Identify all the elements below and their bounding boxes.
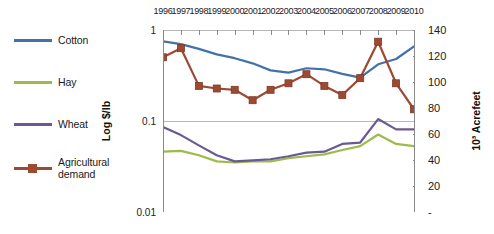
- data-point-marker: [393, 80, 400, 87]
- y-axis-right-tick-label: 120: [428, 50, 446, 62]
- legend-swatch-agricultural-demand: [14, 167, 52, 170]
- data-point-marker: [285, 80, 292, 87]
- x-axis-tick-labels: 1996199719981999200020012002200320042005…: [163, 6, 414, 20]
- y-axis-left-line: [163, 30, 164, 212]
- chart-figure: Cotton Hay Wheat Agricultural demand 199…: [0, 0, 494, 234]
- legend-item-hay[interactable]: Hay: [14, 76, 76, 88]
- series-line-hay: [163, 135, 414, 163]
- data-point-marker: [231, 86, 238, 93]
- legend-item-wheat[interactable]: Wheat: [14, 118, 88, 130]
- legend-label-hay: Hay: [58, 76, 76, 88]
- x-axis-tick-label: 2008: [369, 6, 388, 17]
- data-point-marker: [321, 82, 328, 89]
- x-axis-tick-label: 2005: [315, 6, 334, 17]
- x-axis-tick-label: 2009: [387, 6, 406, 17]
- plot-area: [163, 30, 414, 212]
- x-axis-tick-label: 1999: [207, 6, 226, 17]
- chart-legend: Cotton Hay Wheat Agricultural demand: [0, 28, 110, 208]
- x-axis-tick-label: 2010: [405, 6, 424, 17]
- legend-item-agricultural-demand[interactable]: Agricultural demand: [14, 156, 120, 180]
- x-axis-tick-label: 2003: [279, 6, 298, 17]
- y-axis-right-tick-label: 100: [428, 76, 446, 88]
- data-point-marker: [213, 85, 220, 92]
- y-axis-right-tick-label: 40: [428, 154, 440, 166]
- data-point-marker: [357, 75, 364, 82]
- x-axis-tick-label: 1997: [172, 6, 191, 17]
- data-point-marker: [195, 82, 202, 89]
- legend-swatch-wheat: [14, 123, 52, 126]
- x-axis-tick-label: 2004: [297, 6, 316, 17]
- data-series-layer: [163, 30, 414, 212]
- x-axis-tick-label: 1998: [189, 6, 208, 17]
- y-axis-left-title: Log $/lb: [100, 101, 112, 141]
- legend-swatch-hay: [14, 81, 52, 84]
- y-axis-right-tick-label: -: [428, 206, 432, 218]
- y-axis-left-tick-label: 0.01: [120, 207, 156, 218]
- x-axis-tick-label: 1996: [154, 6, 173, 17]
- x-axis-tick-label: 2001: [243, 6, 262, 17]
- data-point-marker: [249, 97, 256, 104]
- series-line-agricultural-demand: [163, 42, 414, 110]
- y-axis-left-tick-label: 1: [120, 25, 156, 36]
- data-point-marker: [267, 86, 274, 93]
- legend-label-agricultural-demand: Agricultural demand: [58, 156, 120, 180]
- y-axis-right-tick-label: 60: [428, 128, 440, 140]
- square-marker-icon: [28, 164, 37, 173]
- y-axis-right-title: 10³ Acrefeet: [470, 91, 482, 151]
- legend-swatch-cotton: [14, 39, 52, 42]
- data-point-marker: [303, 71, 310, 78]
- x-axis-tick-label: 2000: [225, 6, 244, 17]
- x-axis-tick-label: 2002: [261, 6, 280, 17]
- y-axis-right-tick-label: 80: [428, 102, 440, 114]
- data-point-marker: [339, 92, 346, 99]
- legend-label-wheat: Wheat: [58, 118, 88, 130]
- x-axis-tick-label: 2006: [333, 6, 352, 17]
- y-axis-left-tick-label: 0.1: [120, 116, 156, 127]
- y-axis-right-tick-label: 140: [428, 24, 446, 36]
- y-axis-right-tick-label: 20: [428, 180, 440, 192]
- legend-item-cotton[interactable]: Cotton: [14, 34, 88, 46]
- legend-label-cotton: Cotton: [58, 34, 88, 46]
- data-point-marker: [375, 38, 382, 45]
- x-axis-tick-label: 2007: [351, 6, 370, 17]
- data-point-marker: [177, 45, 184, 52]
- y-axis-right-line: [414, 30, 415, 212]
